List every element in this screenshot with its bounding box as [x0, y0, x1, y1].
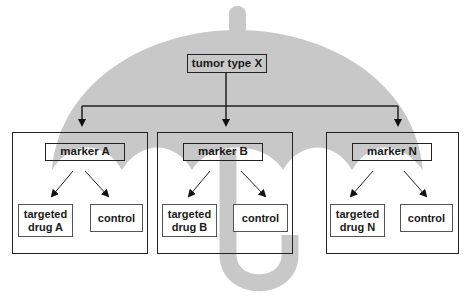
- treatment-label-line1: targeted: [24, 208, 67, 221]
- marker-label: marker A: [60, 145, 109, 158]
- marker-node-b: marker B: [183, 143, 263, 161]
- treatment-node-a: targeted drug A: [18, 204, 73, 237]
- treatment-label-line1: targeted: [336, 208, 379, 221]
- control-node-n: control: [400, 204, 453, 232]
- treatment-node-n: targeted drug N: [330, 204, 385, 237]
- control-label: control: [408, 212, 445, 225]
- root-node-tumor-type: tumor type X: [187, 54, 267, 73]
- umbrella-trial-diagram: tumor type X marker A targeted drug A co…: [0, 0, 464, 296]
- treatment-label-line2: drug B: [172, 221, 207, 234]
- marker-node-a: marker A: [45, 143, 125, 161]
- marker-label: marker B: [198, 145, 248, 158]
- treatment-label-line2: drug A: [28, 221, 63, 234]
- control-label: control: [242, 212, 279, 225]
- marker-node-n: marker N: [352, 143, 432, 161]
- treatment-label-line1: targeted: [168, 208, 211, 221]
- control-node-b: control: [233, 204, 288, 232]
- control-node-a: control: [90, 204, 143, 232]
- marker-label: marker N: [367, 145, 417, 158]
- treatment-node-b: targeted drug B: [162, 204, 217, 237]
- treatment-label-line2: drug N: [340, 221, 375, 234]
- control-label: control: [98, 212, 135, 225]
- root-label: tumor type X: [192, 57, 262, 70]
